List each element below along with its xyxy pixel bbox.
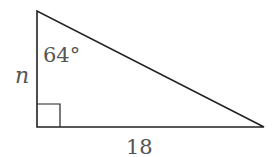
side-18-label: 18 <box>126 135 153 157</box>
triangle-diagram: 64° n 18 <box>0 0 274 157</box>
right-angle-marker <box>37 104 60 127</box>
side-n-label: n <box>15 63 29 88</box>
triangle <box>37 11 264 127</box>
angle-label: 64° <box>43 43 80 67</box>
